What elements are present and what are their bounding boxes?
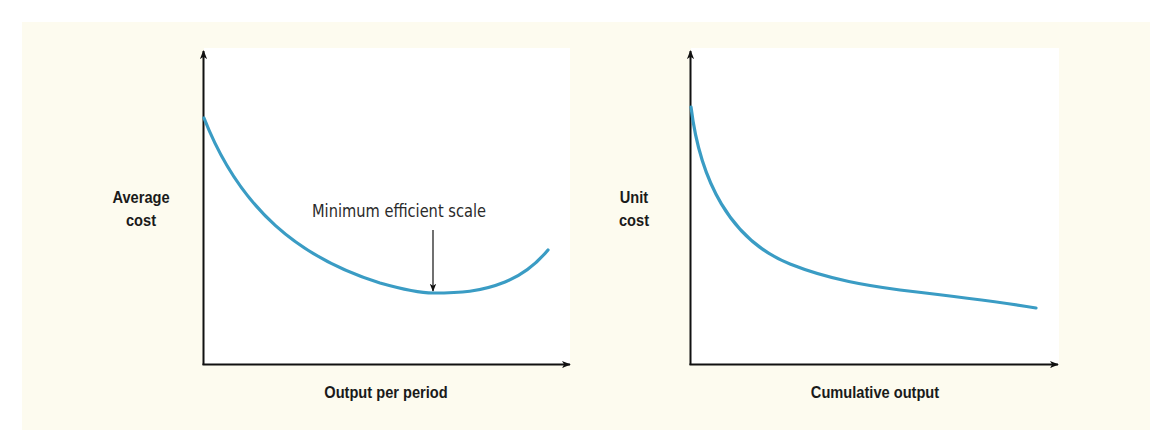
unit-cost-curve bbox=[691, 107, 1036, 308]
right-y-label-line1: Unit bbox=[587, 186, 682, 209]
right-axes bbox=[690, 51, 1059, 365]
left-y-axis-label: Average cost bbox=[94, 186, 189, 232]
right-x-axis-label: Cumulative output bbox=[763, 381, 987, 404]
right-y-axis-label: Unit cost bbox=[587, 186, 682, 232]
min-efficient-scale-label: Minimum efficient scale bbox=[312, 201, 486, 221]
left-x-axis-label: Output per period bbox=[274, 381, 498, 404]
left-y-label-line1: Average bbox=[94, 186, 189, 209]
right-y-label-line2: cost bbox=[587, 209, 682, 232]
left-y-label-line2: cost bbox=[94, 209, 189, 232]
